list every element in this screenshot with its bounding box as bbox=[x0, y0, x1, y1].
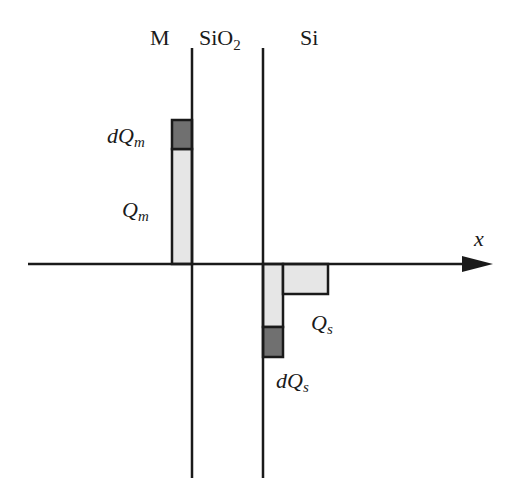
metal-charge-bar bbox=[172, 149, 192, 264]
x-axis-label: x bbox=[473, 226, 484, 251]
metal-delta-charge-label: dQm bbox=[107, 123, 145, 150]
metal-delta-charge-bar bbox=[172, 120, 192, 149]
semi-delta-charge-bar bbox=[263, 327, 283, 357]
semi-charge-label: Qs bbox=[311, 310, 333, 337]
metal-charge-label: Qm bbox=[122, 197, 149, 224]
semi-charge-bar-horizontal bbox=[283, 264, 328, 294]
mos-charge-diagram: M SiO2 Si x dQm Qm Qs dQs bbox=[0, 0, 517, 502]
oxide-region-label: SiO2 bbox=[199, 25, 241, 53]
semi-delta-charge-label: dQs bbox=[276, 368, 309, 395]
semi-charge-bar-vertical bbox=[263, 264, 283, 327]
metal-region-label: M bbox=[150, 25, 170, 50]
semiconductor-region-label: Si bbox=[300, 25, 318, 50]
x-axis-arrow-icon bbox=[462, 256, 493, 272]
